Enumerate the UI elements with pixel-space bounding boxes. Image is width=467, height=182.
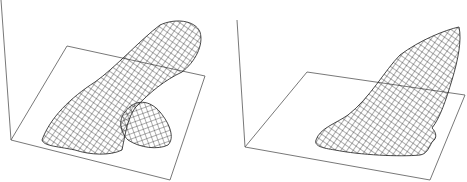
figure-canvas <box>0 0 467 182</box>
right-vertical-axis <box>237 20 245 147</box>
left-wireframe-surface <box>42 21 201 154</box>
right-wireframe-surface <box>316 27 460 156</box>
left-plot <box>1 0 205 180</box>
right-plot <box>237 20 465 180</box>
left-vertical-axis <box>1 0 11 140</box>
